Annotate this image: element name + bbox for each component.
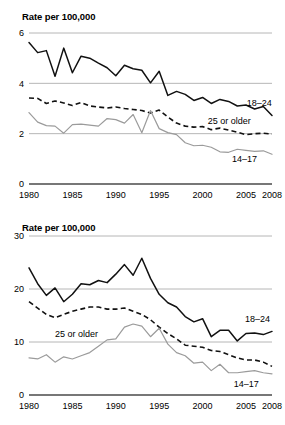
y-tick-label-30: 30 [14, 231, 24, 241]
x-tick-label-2008: 2008 [262, 190, 282, 200]
x-tick-label-1990: 1990 [106, 401, 126, 411]
x-tick-label-2000: 2000 [193, 190, 213, 200]
x-tick-label-1980: 1980 [19, 190, 39, 200]
y-tick-label-6: 6 [19, 28, 24, 38]
chart-top-panel: Rate per 100,000 02461980198519901995200… [0, 0, 285, 212]
x-tick-label-1980: 1980 [19, 401, 39, 411]
series-label-18-24: 18–24 [247, 98, 272, 108]
x-tick-label-1990: 1990 [106, 190, 126, 200]
x-tick-label-2000: 2000 [193, 401, 213, 411]
x-tick-label-1995: 1995 [149, 190, 169, 200]
y-tick-label-2: 2 [19, 129, 24, 139]
chart-bottom-panel: Rate per 100,000 01020301980198519901995… [0, 212, 285, 425]
x-tick-label-1995: 1995 [149, 401, 169, 411]
series-line-18-24 [29, 43, 272, 116]
y-tick-label-0: 0 [19, 390, 24, 400]
series-label-18-24: 18–24 [245, 314, 270, 324]
series-label-14-17: 14–17 [234, 379, 259, 389]
x-tick-label-1985: 1985 [62, 190, 82, 200]
chart-bottom-svg: 0102030198019851990199520002005200818–24… [0, 212, 285, 425]
x-tick-label-2005: 2005 [236, 401, 256, 411]
series-label-25-or-older: 25 or older [55, 329, 98, 339]
x-tick-label-2008: 2008 [262, 401, 282, 411]
series-label-25-or-older: 25 or older [208, 116, 251, 126]
chart-top-svg: 0246198019851990199520002005200818–2425 … [0, 0, 285, 212]
x-tick-label-1985: 1985 [62, 401, 82, 411]
y-tick-label-20: 20 [14, 284, 24, 294]
y-tick-label-0: 0 [19, 179, 24, 189]
y-tick-label-10: 10 [14, 337, 24, 347]
y-tick-label-4: 4 [19, 79, 24, 89]
series-label-14-17: 14–17 [232, 154, 257, 164]
x-tick-label-2005: 2005 [236, 190, 256, 200]
